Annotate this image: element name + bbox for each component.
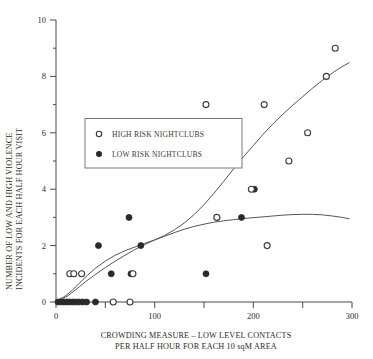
x-axis-title-line2: PER HALF HOUR FOR EACH 10 sqM AREA: [115, 342, 277, 351]
data-point: [71, 271, 77, 277]
data-point: [332, 45, 338, 51]
data-point: [323, 73, 329, 79]
data-point: [127, 299, 133, 305]
data-point: [264, 243, 270, 249]
legend-label-high-risk: HIGH RISK NIGHTCLUBS: [112, 130, 204, 139]
low-risk-fit-curve: [57, 214, 349, 300]
data-point: [214, 214, 220, 220]
y-axis-title-line2: INCIDENTS FOR EACH HALF HOUR VISIT: [15, 128, 24, 290]
x-tick-label-300: 300: [346, 311, 359, 321]
data-point: [126, 214, 132, 220]
data-point: [248, 186, 254, 192]
legend: HIGH RISK NIGHTCLUBS LOW RISK NIGHTCLUBS: [85, 119, 242, 169]
legend-label-low-risk: LOW RISK NIGHTCLUBS: [112, 150, 202, 159]
fitted-curves: [57, 63, 349, 301]
x-tick-label-100: 100: [148, 311, 161, 321]
data-point: [110, 299, 116, 305]
y-tick-label-10: 10: [38, 15, 47, 25]
data-point: [92, 299, 98, 305]
legend-marker-low-risk-icon: [96, 151, 101, 156]
y-axis-ticks: 0 2 4 6 8 10: [38, 15, 57, 307]
data-point: [203, 271, 209, 277]
data-point: [286, 158, 292, 164]
data-point: [203, 102, 209, 108]
data-point: [238, 214, 244, 220]
data-point: [261, 102, 267, 108]
legend-marker-high-risk-icon: [96, 131, 101, 136]
y-tick-label-4: 4: [42, 184, 47, 194]
data-point: [130, 271, 136, 277]
y-axis-title-line1: NUMBER OF LOW AND HIGH VIOLENCE: [5, 133, 14, 290]
x-tick-label-0: 0: [54, 311, 58, 321]
legend-box: [85, 119, 242, 169]
data-point: [95, 243, 101, 249]
data-point: [305, 130, 311, 136]
x-tick-label-200: 200: [247, 311, 260, 321]
data-point: [138, 243, 144, 249]
y-axis-title: NUMBER OF LOW AND HIGH VIOLENCE INCIDENT…: [5, 128, 24, 290]
series-low-risk-points: [55, 186, 257, 305]
data-point: [79, 271, 85, 277]
x-axis-title-line1: CROWDING MEASURE – LOW LEVEL CONTACTS: [101, 331, 292, 340]
x-axis-title: CROWDING MEASURE – LOW LEVEL CONTACTS PE…: [101, 331, 292, 351]
violence-crowding-scatter-chart: NUMBER OF LOW AND HIGH VIOLENCE INCIDENT…: [0, 0, 373, 359]
chart-svg: NUMBER OF LOW AND HIGH VIOLENCE INCIDENT…: [0, 0, 373, 359]
data-point: [84, 299, 90, 305]
y-tick-label-0: 0: [42, 297, 46, 307]
y-tick-label-2: 2: [42, 241, 46, 251]
y-tick-label-6: 6: [42, 128, 46, 138]
y-tick-label-8: 8: [42, 71, 46, 81]
x-axis-ticks: 0 100 200 300: [54, 302, 359, 321]
data-point: [108, 271, 114, 277]
